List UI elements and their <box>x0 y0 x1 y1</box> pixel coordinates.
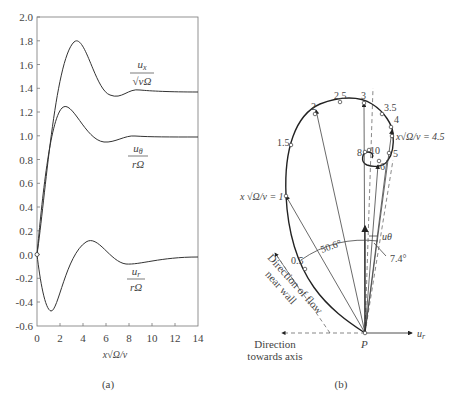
y-tick: 1.8 <box>19 35 33 47</box>
panel-b-diagram: 0.5 x √Ω/ν = 1 1.5 2 2.5 3 3.5 4 x√Ω/ν =… <box>239 88 445 391</box>
svg-text:x √Ω/ν = 1: x √Ω/ν = 1 <box>239 191 284 202</box>
y-tick: 0.6 <box>19 177 33 189</box>
plot-frame <box>37 17 198 326</box>
y-tick: 1.2 <box>19 106 33 118</box>
svg-text:x√Ω/ν = 4.5: x√Ω/ν = 4.5 <box>395 131 445 142</box>
svg-text:8: 8 <box>357 147 362 158</box>
y-tick: -0.4 <box>16 296 34 308</box>
svg-text:1.5: 1.5 <box>277 137 290 148</box>
x-tick: 12 <box>170 332 181 344</box>
caption-a: (a) <box>102 378 115 391</box>
origin-marker <box>35 253 39 257</box>
point-markers <box>284 100 394 335</box>
svg-text:4: 4 <box>394 114 399 125</box>
point-labels: 0.5 x √Ω/ν = 1 1.5 2 2.5 3 3.5 4 x√Ω/ν =… <box>239 90 445 350</box>
y-tick: 1.4 <box>19 82 33 94</box>
dashed-guide <box>365 88 373 333</box>
svg-text:3: 3 <box>361 90 366 101</box>
angle-label-2: 7.4° <box>390 253 407 264</box>
y-tick: 0.8 <box>19 154 33 166</box>
ux-denominator: √νΩ <box>133 75 152 87</box>
x-tick: 14 <box>193 332 205 344</box>
y-tick: 0.0 <box>19 249 33 261</box>
svg-text:10: 10 <box>370 145 380 156</box>
x-tick: 4 <box>80 332 86 344</box>
x-axis-label: x√Ω/ν <box>102 349 128 360</box>
svg-text:3.5: 3.5 <box>384 102 397 113</box>
figure: 2.0 1.8 1.6 1.4 1.2 1.0 0.8 0.6 0.4 0.2 … <box>0 0 455 401</box>
svg-text:5: 5 <box>393 148 398 159</box>
caption-b: (b) <box>335 378 348 391</box>
y-tick: 1.6 <box>19 59 33 71</box>
angle-label-1: 50.6° <box>319 237 343 255</box>
x-tick: 8 <box>126 332 132 344</box>
curve-utheta <box>37 106 198 254</box>
x-tick: 10 <box>147 332 159 344</box>
curve-labels: ux √νΩ uθ rΩ ur rΩ <box>127 58 154 293</box>
utheta-denominator: rΩ <box>132 158 144 170</box>
svg-text:0.5: 0.5 <box>291 255 304 266</box>
svg-text:ux: ux <box>137 58 147 72</box>
y-tick: -0.2 <box>16 272 33 284</box>
utheta-label: uθ <box>382 231 392 242</box>
svg-text:6: 6 <box>380 161 385 172</box>
svg-text:uθ: uθ <box>133 142 143 156</box>
svg-text:Direction: Direction <box>254 338 296 350</box>
svg-text:2.5: 2.5 <box>334 90 347 101</box>
curve-ur <box>37 241 198 311</box>
y-tick: 2.0 <box>19 11 33 23</box>
svg-text:2: 2 <box>311 101 316 112</box>
svg-text:towards axis: towards axis <box>247 350 302 362</box>
x-axis: 0 2 4 6 8 10 12 14 x√Ω/ν <box>34 323 204 360</box>
y-tick: 0.2 <box>19 225 33 237</box>
panel-a-chart: 2.0 1.8 1.6 1.4 1.2 1.0 0.8 0.6 0.4 0.2 … <box>16 11 204 391</box>
y-axis: 2.0 1.8 1.6 1.4 1.2 1.0 0.8 0.6 0.4 0.2 … <box>16 11 40 332</box>
curve-ux <box>37 41 198 255</box>
ur-denominator: rΩ <box>130 281 142 293</box>
x-tick: 6 <box>103 332 109 344</box>
x-tick: 0 <box>34 332 40 344</box>
svg-text:ur: ur <box>417 328 426 341</box>
y-tick: 1.0 <box>19 130 33 142</box>
y-tick: -0.6 <box>16 320 34 332</box>
x-tick: 2 <box>57 332 63 344</box>
dashed-guide <box>365 160 393 333</box>
axis-annotation: Direction towards axis <box>247 338 302 362</box>
y-tick: 0.4 <box>19 201 33 213</box>
origin-label: P <box>360 338 368 350</box>
svg-text:ur: ur <box>132 265 142 279</box>
